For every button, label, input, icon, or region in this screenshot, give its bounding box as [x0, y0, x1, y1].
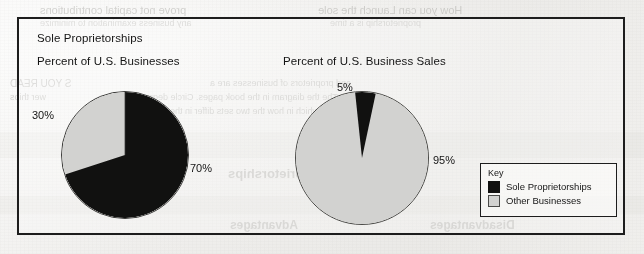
data-label-left-light: 30% [32, 109, 54, 121]
legend-item-sole-proprietorships: Sole Proprietorships [488, 181, 616, 193]
legend-key-box: Key Sole Proprietorships Other Businesse… [480, 163, 617, 217]
data-label-right-dark: 5% [337, 81, 353, 93]
figure-title: Sole Proprietorships [37, 32, 143, 44]
legend-item-other-businesses: Other Businesses [488, 195, 616, 207]
data-label-right-light: 95% [433, 154, 455, 166]
data-label-left-dark: 70% [190, 162, 212, 174]
right-chart-subtitle: Percent of U.S. Business Sales [283, 55, 446, 67]
pie-chart-us-business-sales [295, 91, 429, 225]
legend-label-other-businesses: Other Businesses [506, 195, 581, 207]
left-chart-subtitle: Percent of U.S. Businesses [37, 55, 180, 67]
legend-swatch-icon-dark [488, 181, 500, 193]
legend-title: Key [488, 168, 616, 179]
legend-swatch-icon-light [488, 195, 500, 207]
legend-label-sole-proprietorships: Sole Proprietorships [506, 181, 592, 193]
pie-chart-us-businesses [61, 91, 189, 219]
